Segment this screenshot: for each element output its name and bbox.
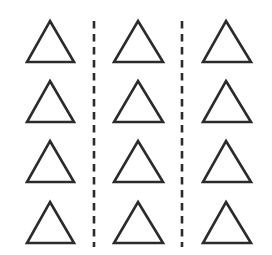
triangle-icon-r1-c1 bbox=[27, 21, 74, 62]
triangle-icon-r3-c3 bbox=[203, 141, 251, 182]
triangle-icon-r2-c3 bbox=[203, 81, 251, 122]
triangle-icon-r4-c2 bbox=[114, 202, 163, 243]
diagram-canvas bbox=[0, 0, 272, 255]
triangle-icon-r4-c3 bbox=[203, 202, 251, 243]
triangle-icon-r1-c2 bbox=[114, 21, 163, 62]
triangle-icon-r1-c3 bbox=[203, 21, 251, 62]
triangle-icon-r3-c1 bbox=[27, 141, 74, 182]
triangle-icon-r2-c2 bbox=[114, 81, 163, 122]
triangle-grid-diagram bbox=[0, 0, 272, 255]
triangle-icon-r3-c2 bbox=[114, 141, 163, 182]
triangle-icon-r4-c1 bbox=[27, 202, 74, 243]
triangle-icon-r2-c1 bbox=[27, 81, 74, 122]
